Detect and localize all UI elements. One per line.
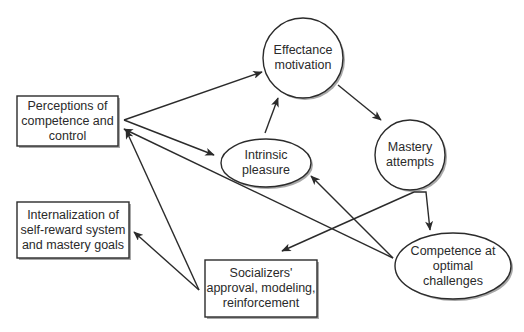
node-competence-ellipse [395,233,511,299]
node-intrinsic-ellipse [221,139,311,187]
node-mastery-circle [375,120,445,190]
node-perceptions-box [17,96,118,146]
edge-perceptions-to-intrinsic [124,120,214,155]
node-internalization-box [17,202,129,258]
edge-socializers-to-internalization [134,232,199,290]
diagram-canvas [0,0,524,332]
edge-intrinsic-to-effectance [265,98,278,133]
node-effectance-circle [263,18,343,98]
edge-mastery-to-socializers [282,192,414,251]
edge-mastery-to-competence [414,192,430,230]
edge-perceptions-to-effectance [124,72,262,120]
edge-competence-to-intrinsic [311,176,393,258]
edge-effectance-to-mastery [338,85,381,120]
edge-socializers-to-perceptions [126,130,199,290]
node-socializers-box [205,260,317,317]
